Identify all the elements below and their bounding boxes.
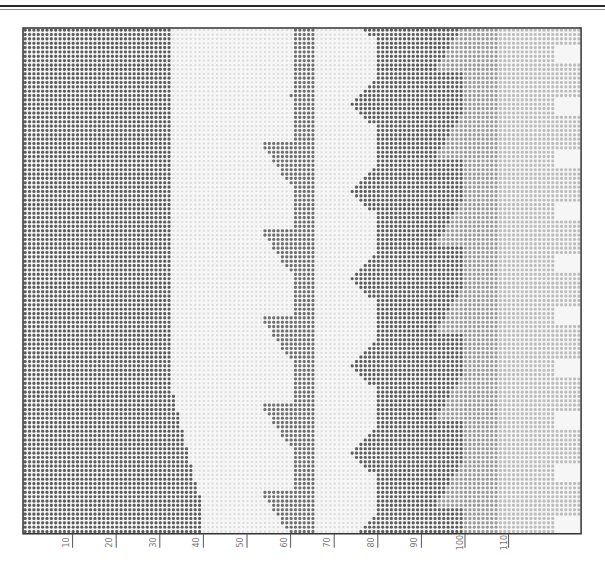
x-tick-label: 110 <box>500 535 509 550</box>
x-tick-label: 40 <box>192 537 201 547</box>
x-tick-label: 30 <box>148 537 157 547</box>
x-tick-label: 60 <box>279 537 288 547</box>
x-tick-label: 50 <box>236 537 245 547</box>
x-tick-label: 70 <box>323 537 332 547</box>
knitting-chart-grid <box>0 0 605 566</box>
x-tick-label: 10 <box>61 537 70 547</box>
x-tick-label: 100 <box>456 535 465 550</box>
x-tick-label: 20 <box>105 537 114 547</box>
x-tick-label: 80 <box>366 537 375 547</box>
x-tick-label: 90 <box>410 537 419 547</box>
